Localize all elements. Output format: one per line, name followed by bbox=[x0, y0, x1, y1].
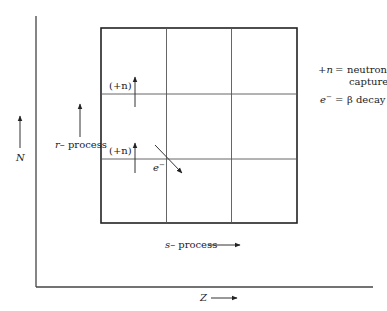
legend-neutron-sign: + bbox=[318, 64, 326, 75]
n-axis-label: N bbox=[15, 152, 26, 163]
legend-beta-equals: = bbox=[335, 94, 343, 105]
legend-beta-sup: − bbox=[326, 93, 332, 101]
legend-neutron-meaning-1: neutron bbox=[347, 64, 387, 75]
z-axis-label: Z bbox=[199, 292, 208, 303]
nuclide-chart-diagram: N Z r– process (+n) (+n) e− s– process +… bbox=[0, 0, 387, 311]
nuclide-grid-border bbox=[101, 28, 297, 223]
legend: +n = neutron capture e− = β decay bbox=[318, 64, 387, 105]
legend-beta-symbol: e− bbox=[320, 93, 332, 105]
beta-decay-label: e− bbox=[153, 161, 165, 173]
r-process-suffix: – process bbox=[60, 139, 107, 150]
legend-neutron-meaning-2: capture bbox=[349, 76, 387, 87]
legend-beta-meaning: β decay bbox=[347, 94, 386, 105]
r-process-label: r– process bbox=[55, 139, 107, 150]
beta-decay-sup: − bbox=[159, 161, 165, 169]
legend-neutron-var: n bbox=[326, 64, 332, 75]
neutron-capture-label-upper: (+n) bbox=[109, 80, 132, 91]
legend-neutron-equals: = bbox=[335, 64, 343, 75]
legend-neutron-symbol: +n bbox=[318, 64, 333, 75]
neutron-capture-label-lower: (+n) bbox=[109, 145, 132, 156]
